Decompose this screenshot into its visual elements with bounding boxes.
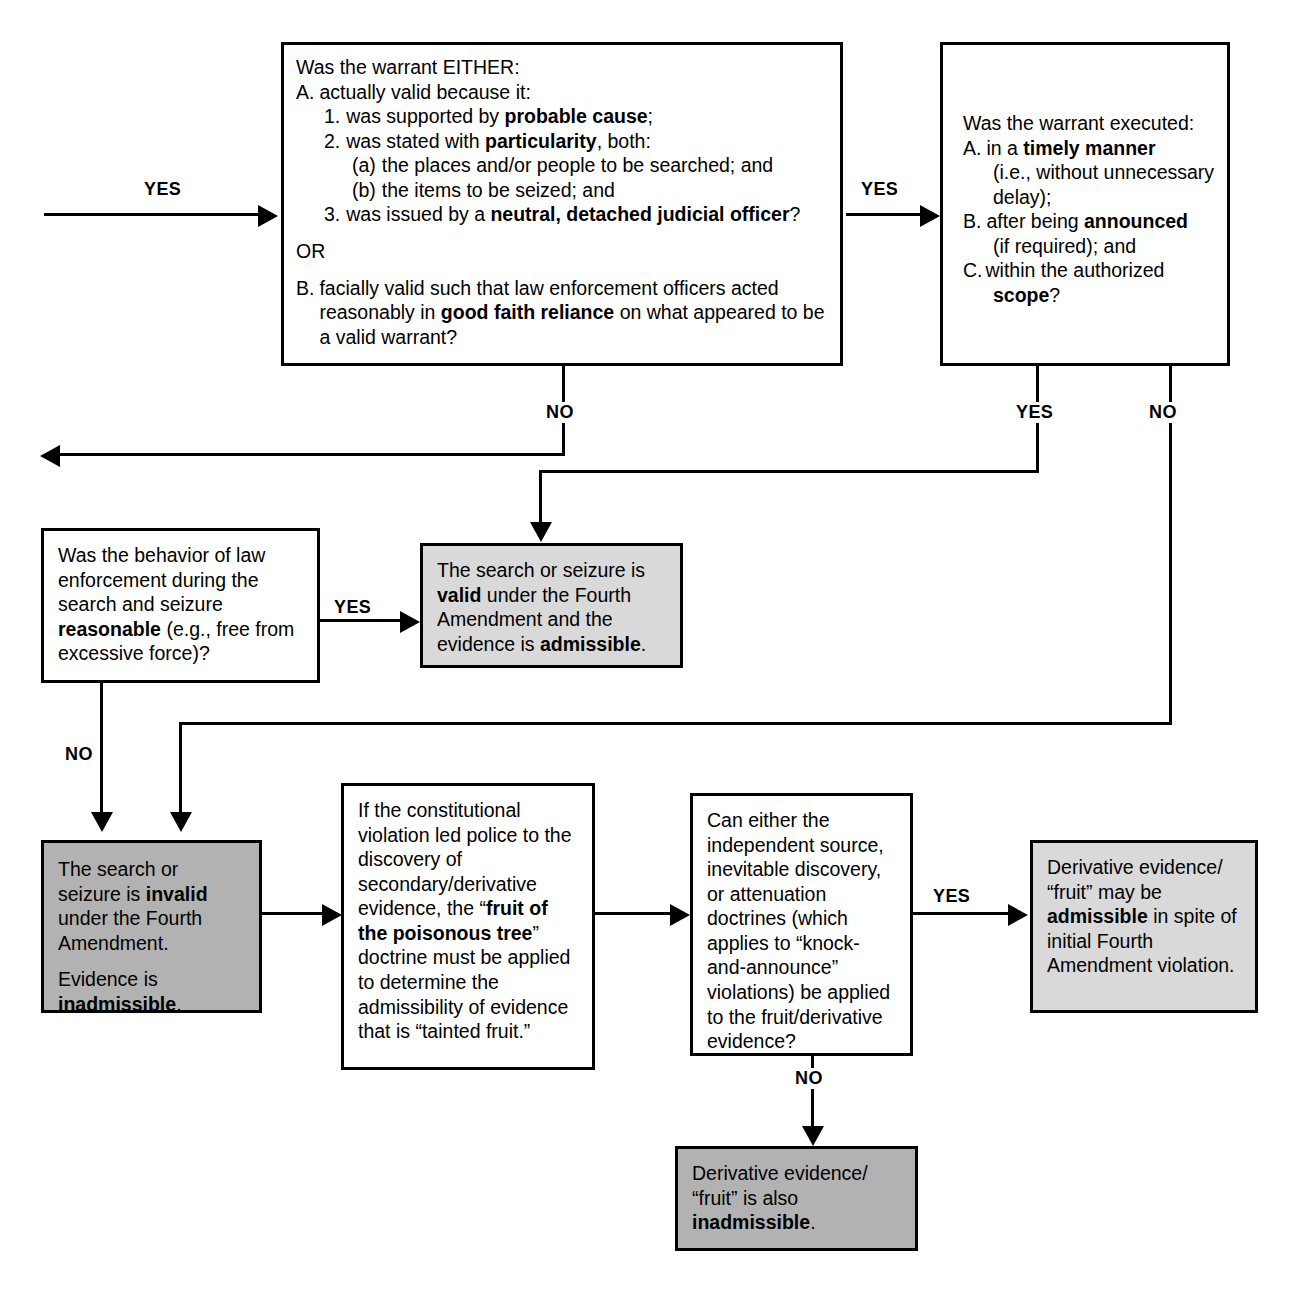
- item2-pre: was stated with: [346, 130, 485, 152]
- warrant-validity-item-a: A. actually valid because it:: [296, 80, 828, 105]
- node-doctrines-question[interactable]: Can either the independent source, inevi…: [690, 793, 913, 1056]
- node-search-invalid[interactable]: The search or seizure is invalid under t…: [41, 840, 262, 1013]
- itemb-bold: good faith reliance: [441, 301, 614, 323]
- edge-label-warrant-valid-no: NO: [543, 402, 577, 423]
- node-derivative-inadmissible[interactable]: Derivative evidence/ “fruit” is also ina…: [675, 1146, 918, 1251]
- edge-label-doctrines-yes: YES: [930, 886, 973, 907]
- edge-label-behavior-yes: YES: [331, 597, 374, 618]
- edge-behavior-no-seg1: [100, 683, 103, 816]
- deriv-inadm-post: .: [810, 1211, 815, 1233]
- item3-bold: neutral, detached judicial officer: [490, 203, 789, 225]
- edge-execution-no-arrowhead: [170, 812, 192, 832]
- warrant-validity-item-1: 1. was supported by probable cause;: [296, 104, 828, 129]
- exec-a-pre: in a: [986, 137, 1023, 159]
- behavior-pre: Was the behavior of law enforcement duri…: [58, 544, 265, 615]
- edge-execution-yes-arrowhead: [530, 522, 552, 542]
- edge-warrant-valid-yes: [846, 213, 922, 216]
- valid-post: .: [641, 633, 646, 655]
- marker-2b: (b): [352, 178, 376, 203]
- item3-pre: was issued by a: [346, 203, 490, 225]
- edge-entry: [44, 213, 260, 216]
- item2-bold: particularity: [485, 130, 597, 152]
- warrant-validity-or: OR: [296, 239, 828, 264]
- invalid-p2-pre: Evidence is: [58, 968, 158, 990]
- warrant-validity-item-b: B. facially valid such that law enforcem…: [296, 276, 828, 350]
- edge-label-warrant-valid-yes: YES: [858, 179, 901, 200]
- invalid-p1-post: under the Fourth Amendment.: [58, 907, 202, 954]
- edge-doctrines-no-arrowhead: [802, 1126, 824, 1146]
- item2b-text: the items to be seized; and: [376, 178, 828, 203]
- warrant-validity-item-2: 2. was stated with particularity, both:: [296, 129, 828, 154]
- edge-doctrines-yes: [913, 912, 1011, 915]
- warrant-validity-a-text: actually valid because it:: [314, 80, 828, 105]
- warrant-validity-item-3: 3. was issued by a neutral, detached jud…: [296, 202, 828, 227]
- flowchart-canvas: YES YES NO YES NO YES NO YES NO Was the …: [0, 0, 1299, 1289]
- warrant-execution-a-sub: (i.e., without unnecessary delay);: [963, 160, 1215, 209]
- doctrines-text: Can either the independent source, inevi…: [707, 809, 890, 1052]
- deriv-inadm-pre: Derivative evidence/ “fruit” is also: [692, 1162, 868, 1209]
- warrant-execution-b-sub: (if required); and: [963, 234, 1215, 259]
- warrant-validity-item-2a: (a) the places and/or people to be searc…: [296, 153, 828, 178]
- item2-post: , both:: [597, 130, 651, 152]
- invalid-p1-bold: invalid: [146, 883, 208, 905]
- edge-execution-yes-seg1: [539, 470, 1039, 473]
- marker-2: 2.: [324, 129, 340, 154]
- warrant-execution-item-c: C. within the authorized: [963, 258, 1215, 283]
- deriv-adm-pre: Derivative evidence/ “fruit” may be: [1047, 856, 1223, 903]
- deriv-inadm-bold: inadmissible: [692, 1211, 810, 1233]
- edge-behavior-yes: [320, 619, 402, 622]
- exec-a-bold: timely manner: [1023, 137, 1155, 159]
- warrant-execution-item-b: B. after being announced: [963, 209, 1215, 234]
- node-search-valid[interactable]: The search or seizure is valid under the…: [420, 543, 683, 668]
- node-behavior-reasonable[interactable]: Was the behavior of law enforcement duri…: [41, 528, 320, 683]
- edge-warrant-valid-yes-arrowhead: [920, 205, 940, 227]
- node-warrant-execution[interactable]: Was the warrant executed: A. in a timely…: [940, 42, 1230, 366]
- node-warrant-validity[interactable]: Was the warrant EITHER: A. actually vali…: [281, 42, 843, 366]
- exec-b-bold: announced: [1084, 210, 1188, 232]
- marker-a: A.: [296, 80, 314, 105]
- edge-label-behavior-no: NO: [62, 744, 96, 765]
- item3-post: ?: [790, 203, 801, 225]
- item2a-text: the places and/or people to be searched;…: [376, 153, 828, 178]
- exec-c-bold: scope: [993, 284, 1049, 306]
- edge-label-doctrines-no: NO: [792, 1068, 826, 1089]
- edge-label-execution-no: NO: [1146, 402, 1180, 423]
- edge-execution-yes-seg3: [539, 470, 542, 527]
- valid-bold2: admissible: [540, 633, 641, 655]
- node-fruit-doctrine[interactable]: If the constitutional violation led poli…: [341, 783, 595, 1070]
- behavior-bold: reasonable: [58, 618, 161, 640]
- edge-label-execution-yes: YES: [1013, 402, 1056, 423]
- valid-pre: The search or seizure is: [437, 559, 645, 581]
- edge-execution-no-seg2: [179, 722, 1172, 725]
- edge-invalid-to-fruit-arrowhead: [322, 904, 342, 926]
- marker-exec-a: A.: [963, 136, 981, 161]
- warrant-validity-lead: Was the warrant EITHER:: [296, 55, 828, 80]
- valid-bold1: valid: [437, 584, 481, 606]
- warrant-validity-item-2b: (b) the items to be seized; and: [296, 178, 828, 203]
- edge-fruit-to-doctrines: [595, 912, 673, 915]
- edge-invalid-to-fruit: [262, 912, 326, 915]
- marker-1: 1.: [324, 104, 340, 129]
- invalid-paragraph-2: Evidence is inadmissible.: [58, 967, 245, 1016]
- edge-behavior-yes-arrowhead: [400, 611, 420, 633]
- edge-warrant-valid-no-arrowhead: [40, 445, 60, 467]
- marker-3: 3.: [324, 202, 340, 227]
- marker-exec-c: C.: [963, 258, 983, 283]
- invalid-p2-post: .: [176, 993, 181, 1015]
- edge-doctrines-yes-arrowhead: [1008, 904, 1028, 926]
- edge-entry-arrowhead: [258, 205, 278, 227]
- warrant-execution-lead: Was the warrant executed:: [963, 111, 1215, 136]
- item1-pre: was supported by: [346, 105, 504, 127]
- item1-bold: probable cause: [505, 105, 648, 127]
- edge-behavior-no-arrowhead: [91, 812, 113, 832]
- warrant-execution-item-a: A. in a timely manner: [963, 136, 1215, 161]
- exec-c-post: ?: [1049, 284, 1060, 306]
- marker-exec-b: B.: [963, 209, 981, 234]
- invalid-paragraph-1: The search or seizure is invalid under t…: [58, 857, 245, 955]
- marker-b: B.: [296, 276, 314, 350]
- deriv-adm-bold: admissible: [1047, 905, 1148, 927]
- node-derivative-admissible[interactable]: Derivative evidence/ “fruit” may be admi…: [1030, 840, 1258, 1013]
- item1-post: ;: [648, 105, 653, 127]
- edge-warrant-valid-no-seg2: [60, 453, 565, 456]
- edge-fruit-to-doctrines-arrowhead: [670, 904, 690, 926]
